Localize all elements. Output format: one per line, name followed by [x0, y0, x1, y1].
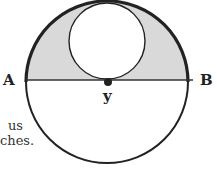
- label-center-y: y: [103, 89, 112, 104]
- center-point-dot: [104, 78, 112, 86]
- cropped-text-fragment-2: ches.: [0, 133, 34, 148]
- small-inscribed-circle: [69, 3, 145, 79]
- label-point-a: A: [3, 73, 15, 88]
- cropped-text-fragment-1: us: [8, 118, 23, 133]
- label-point-b: B: [200, 73, 213, 88]
